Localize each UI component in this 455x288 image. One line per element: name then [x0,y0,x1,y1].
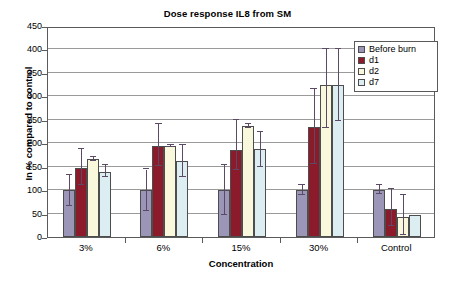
error-cap-lower [66,205,72,206]
error-cap-upper [310,88,316,89]
bar[interactable] [373,190,385,237]
legend-item[interactable]: Before burn [358,44,434,55]
error-cap-lower [310,163,316,164]
error-bar [260,132,261,167]
error-bar [69,175,70,206]
y-tick-label: 200 [2,138,42,148]
error-cap-upper [143,168,149,169]
error-cap-upper [322,48,328,49]
error-cap-lower [322,127,328,128]
error-cap-upper [376,184,382,185]
error-bar [146,170,147,211]
bar-group [281,28,359,237]
error-cap-upper [167,144,173,145]
x-tick-label: 30% [279,242,359,253]
error-cap-upper [298,184,304,185]
legend-item[interactable]: d7 [358,77,434,88]
error-cap-upper [78,148,84,149]
y-tick-label: 300 [2,91,42,101]
legend-item-label: d1 [369,55,379,66]
error-cap-lower [102,176,108,177]
error-cap-lower [388,225,394,226]
bar[interactable] [99,172,111,237]
legend-swatch-icon [358,57,365,64]
error-cap-upper [245,123,251,124]
error-bar [224,165,225,216]
error-cap-lower [90,160,96,161]
error-cap-lower [298,194,304,195]
error-cap-lower [257,166,263,167]
error-cap-lower [245,127,251,128]
legend-swatch-icon [358,79,365,86]
x-axis-title: Concentration [47,258,435,269]
y-tick-mark [42,238,47,239]
error-cap-upper [400,194,406,195]
error-cap-lower [221,214,227,215]
error-bar [182,145,183,177]
error-cap-lower [376,193,382,194]
y-tick-label: 150 [2,162,42,172]
legend-item[interactable]: d2 [358,66,434,77]
bar-group [203,28,281,237]
chart-title: Dose response IL8 from SM [0,8,455,19]
bar-group [48,28,126,237]
error-bar [314,89,315,164]
y-tick-label: 450 [2,21,42,31]
y-tick-label: 250 [2,115,42,125]
chart-legend: Before burnd1d2d7 [354,41,438,92]
x-tick-label: 15% [201,242,281,253]
legend-item[interactable]: d1 [358,55,434,66]
y-tick-label: 350 [2,68,42,78]
legend-item-label: d7 [369,77,379,88]
error-cap-lower [155,165,161,166]
x-tick-label: 3% [46,242,126,253]
error-cap-upper [179,144,185,145]
error-cap-lower [233,169,239,170]
error-bar [158,124,159,167]
error-bar [338,49,339,120]
bar[interactable] [87,159,99,237]
error-cap-lower [179,176,185,177]
x-tick-label: 6% [123,242,203,253]
error-cap-lower [143,210,149,211]
chart-container: Dose response IL8 from SM In % compared … [0,0,455,288]
bar[interactable] [409,215,421,238]
legend-swatch-icon [358,46,365,53]
error-cap-upper [233,119,239,120]
error-cap-lower [335,120,341,121]
error-bar [403,195,404,235]
error-cap-upper [155,123,161,124]
error-bar [236,120,237,170]
legend-item-label: d2 [369,66,379,77]
bar[interactable] [164,146,176,237]
bar[interactable] [242,126,254,237]
legend-item-label: Before burn [369,44,416,55]
error-bar [326,49,327,128]
error-bar [81,149,82,185]
error-cap-lower [400,234,406,235]
error-cap-upper [388,188,394,189]
y-tick-label: 100 [2,185,42,195]
y-tick-label: 50 [2,209,42,219]
bar-group [126,28,204,237]
error-cap-upper [90,156,96,157]
error-cap-upper [221,164,227,165]
error-cap-lower [167,146,173,147]
error-bar [391,189,392,227]
error-cap-lower [78,184,84,185]
error-cap-upper [102,164,108,165]
x-tick-label: Control [356,242,436,253]
bar[interactable] [296,190,308,237]
error-cap-upper [257,131,263,132]
error-cap-upper [66,174,72,175]
y-tick-label: 0 [2,232,42,242]
error-cap-upper [335,48,341,49]
legend-swatch-icon [358,68,365,75]
y-tick-label: 400 [2,44,42,54]
